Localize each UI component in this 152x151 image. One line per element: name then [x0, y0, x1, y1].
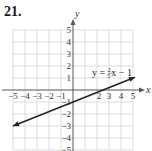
x-tick-label: 4 — [119, 91, 124, 101]
y-axis-label: y — [74, 8, 80, 19]
y-tick-label: −3 — [61, 121, 71, 131]
y-tick-label: 5 — [67, 25, 72, 35]
y-tick-label: 2 — [67, 61, 72, 71]
coordinate-plane: xy −5−4−3−2−1234554321−1−2−3−4−5 y = 25x… — [0, 0, 152, 151]
x-axis-arrow-icon — [139, 88, 145, 93]
x-tick-label: 5 — [131, 91, 136, 101]
y-tick-label: 3 — [67, 49, 72, 59]
x-tick-label: −3 — [32, 91, 42, 101]
x-tick-label: 3 — [107, 91, 112, 101]
y-tick-label: 4 — [67, 37, 72, 47]
x-tick-label: −5 — [8, 91, 18, 101]
x-axis-label: x — [145, 84, 151, 95]
y-axis-arrow-icon — [71, 19, 76, 25]
y-tick-label: −2 — [61, 109, 71, 119]
y-tick-label: −4 — [61, 133, 71, 143]
x-tick-label: −4 — [20, 91, 30, 101]
y-tick-label: 1 — [67, 73, 72, 83]
line-arrow-left-icon — [13, 121, 20, 126]
y-tick-label: −5 — [61, 145, 71, 151]
equation-label: y = 25x − 1 — [92, 67, 132, 79]
x-tick-label: −2 — [44, 91, 54, 101]
tick-labels: −5−4−3−2−1234554321−1−2−3−4−5 — [8, 25, 136, 151]
